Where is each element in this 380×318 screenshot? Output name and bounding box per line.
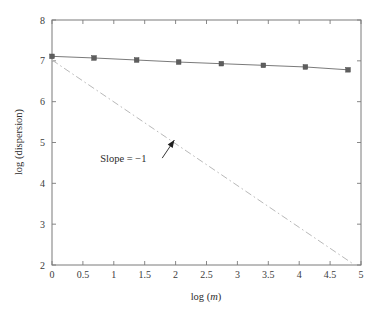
chart-canvas: 00.511.522.533.544.55 2345678 Slope = −1… — [0, 0, 380, 318]
x-tick-label: 1 — [111, 269, 116, 280]
y-tick-label: 8 — [40, 15, 45, 26]
y-tick-label: 4 — [40, 178, 45, 189]
y-tick-label: 2 — [40, 260, 45, 271]
x-tick-label: 0 — [50, 269, 55, 280]
data-point-marker — [134, 58, 139, 63]
y-tick-label: 3 — [40, 219, 45, 230]
x-axis-tick-labels: 00.511.522.533.544.55 — [50, 269, 364, 280]
y-tick-label: 5 — [40, 137, 45, 148]
x-tick-label: 4 — [297, 269, 302, 280]
data-point-marker — [346, 68, 351, 73]
x-tick-label: 2 — [173, 269, 178, 280]
x-tick-label: 3.5 — [262, 269, 275, 280]
x-tick-label: 3 — [235, 269, 240, 280]
plot-frame — [52, 20, 361, 265]
data-point-marker — [92, 56, 97, 61]
x-axis-title: log (m) — [191, 291, 222, 303]
x-tick-label: 0.5 — [77, 269, 90, 280]
chart-figure: 00.511.522.533.544.55 2345678 Slope = −1… — [0, 0, 380, 318]
x-tick-label: 1.5 — [138, 269, 151, 280]
data-point-marker — [261, 63, 266, 68]
data-point-marker — [219, 61, 224, 66]
x-tick-label: 2.5 — [200, 269, 213, 280]
x-tick-label: 5 — [359, 269, 364, 280]
data-point-marker — [50, 54, 55, 59]
slope-annotation-label: Slope = −1 — [100, 153, 146, 164]
y-axis-tick-labels: 2345678 — [40, 15, 45, 271]
data-point-marker — [303, 65, 308, 70]
y-tick-label: 6 — [40, 96, 45, 107]
x-tick-label: 4.5 — [324, 269, 337, 280]
data-point-marker — [176, 60, 181, 65]
y-axis-title: log (dispersion) — [13, 108, 25, 175]
y-tick-label: 7 — [40, 55, 45, 66]
